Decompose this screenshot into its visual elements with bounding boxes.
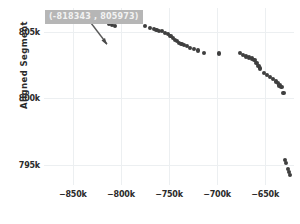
- plot-area: [44, 8, 294, 185]
- data-point-tooltip: (-818343 , 805973): [45, 10, 143, 24]
- scatter-chart-figure: 805k800k795k −850k−800k−750k−700k−650k A…: [0, 0, 300, 224]
- gridline-vertical: [265, 8, 266, 185]
- gridline-horizontal: [44, 165, 294, 166]
- x-axis-tick-label: −700k: [203, 190, 231, 199]
- x-axis-tick-label: −650k: [251, 190, 279, 199]
- data-point[interactable]: [143, 24, 147, 28]
- x-axis-tick-label: −750k: [155, 190, 183, 199]
- data-point[interactable]: [202, 51, 206, 55]
- data-point[interactable]: [258, 66, 262, 70]
- gridline-vertical: [217, 8, 218, 185]
- data-point[interactable]: [288, 173, 292, 177]
- x-axis-tick-label: −800k: [107, 190, 135, 199]
- y-axis-label: Aligned Segment: [19, 15, 29, 115]
- gridline-vertical: [73, 8, 74, 185]
- data-point[interactable]: [281, 91, 285, 95]
- data-point[interactable]: [113, 24, 117, 28]
- y-axis-tick-label: 795k: [19, 161, 40, 170]
- data-point[interactable]: [196, 48, 200, 52]
- x-axis-tick-labels: −850k−800k−750k−700k−650k: [0, 190, 300, 204]
- data-point[interactable]: [217, 51, 221, 55]
- data-point[interactable]: [279, 85, 283, 89]
- x-axis-tick-label: −850k: [59, 190, 87, 199]
- gridline-horizontal: [44, 98, 294, 99]
- gridline-vertical: [121, 8, 122, 185]
